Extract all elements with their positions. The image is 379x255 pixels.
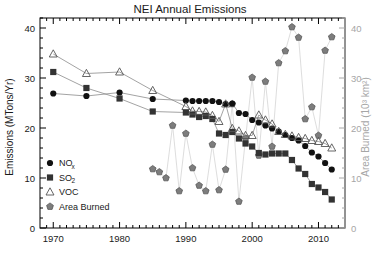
legend-label: SO [59,173,72,183]
data-point [322,189,328,195]
data-point [309,149,315,155]
legend-marker [47,203,54,210]
data-point [249,117,255,123]
data-point [116,95,122,101]
data-point [209,116,215,122]
y-tick-label: 20 [24,123,35,134]
data-point [176,188,183,194]
data-point [189,98,195,104]
x-tick-label: 2010 [308,233,329,244]
chart-container: NEI Annual Emissions 1970198019902000201… [0,0,379,255]
y-axis-label: Emissions (MTons/Yr) [4,78,15,175]
data-point [242,111,248,117]
data-point [149,86,157,93]
x-axis-ticks [47,18,339,228]
legend-label-subscript: 2 [71,177,75,184]
data-point [302,116,309,122]
data-point [249,143,255,149]
y2-tick-label: 40 [351,23,362,34]
data-point [269,150,275,156]
data-point [322,160,328,166]
data-point [289,24,296,30]
data-point [295,34,302,40]
data-point [282,150,288,156]
y-tick-label: 0 [30,223,35,234]
data-point [183,130,190,136]
legend-marker [46,188,54,195]
y2-axis-label: Area Burned (10³ km²) [360,77,371,176]
data-point [83,85,89,91]
data-point [150,108,156,114]
data-point [223,132,229,138]
x-axis-tick-labels: 19701980199020002010 [43,233,329,244]
data-point [236,110,242,116]
data-point [156,169,163,175]
x-tick-label: 1970 [43,233,64,244]
x-tick-label: 1980 [109,233,130,244]
data-point [50,69,56,75]
data-point [309,104,316,110]
data-point [189,165,196,171]
data-point [309,181,315,187]
data-point [315,184,321,190]
data-point [269,125,275,131]
chart-title: NEI Annual Emissions [133,3,246,15]
data-point [216,187,223,193]
data-point [329,196,335,202]
data-point [196,182,203,188]
data-point [116,89,122,95]
data-point [275,60,282,66]
y-axis-ticks [40,18,46,228]
data-point [209,141,216,147]
data-point [196,98,202,104]
data-point [183,109,189,115]
data-point [276,150,282,156]
y-tick-label: 30 [24,73,35,84]
data-point [289,157,295,163]
legend-marker [47,174,53,180]
y-tick-label: 40 [24,23,35,34]
legend-label: Area Burned [59,202,110,212]
data-point [328,144,336,151]
data-point [222,166,229,172]
data-point [329,166,335,172]
data-point [216,99,222,105]
data-point [202,188,209,194]
data-point [282,48,289,54]
data-point [50,90,56,96]
data-point [229,100,235,106]
data-point [262,151,268,157]
data-point [322,47,329,53]
data-point [315,153,321,159]
data-point [256,119,262,125]
data-point [169,122,176,128]
x-tick-label: 1990 [175,233,196,244]
data-point [256,150,262,156]
data-point [269,143,276,149]
y-tick-label: 10 [24,173,35,184]
data-point [236,198,243,204]
data-point [150,96,156,102]
y-axis-tick-labels: 010203040 [24,23,35,234]
data-point [216,130,222,136]
data-point [249,74,256,80]
chart-legend: NOxSO2VOCArea Burned [46,158,110,212]
data-point [82,69,90,76]
data-point [83,93,89,99]
data-point [295,165,301,171]
series-markers-emissions [49,50,335,203]
data-point [203,113,209,119]
y2-axis-ticks [339,18,345,228]
data-point [209,98,215,104]
data-point [262,78,269,84]
legend-label: VOC [59,187,79,197]
legend-label-subscript: x [71,163,75,170]
data-point [203,98,209,104]
emissions-chart: NEI Annual Emissions 1970198019902000201… [0,0,379,255]
data-point [242,140,248,146]
series-lines-emissions [53,54,331,200]
legend-marker [47,160,53,166]
data-point [302,171,308,177]
y2-tick-label: 0 [351,223,356,234]
data-point [328,34,335,40]
